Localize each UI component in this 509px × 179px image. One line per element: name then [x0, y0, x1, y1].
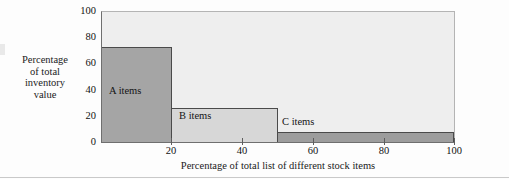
page-bottom-rule: [0, 177, 509, 178]
y-axis-title-line-3: inventory: [14, 77, 76, 89]
plot-area: [101, 11, 455, 143]
y-axis-title: Percentage of total inventory value: [14, 54, 76, 100]
bar-c-items: [278, 132, 454, 142]
x-tick-label-40: 40: [227, 145, 257, 156]
scan-edge-artifact: [0, 44, 5, 55]
bar-label-a-items: A items: [109, 85, 141, 96]
y-tick-label-100: 100: [68, 5, 96, 16]
y-tick-label-40: 40: [68, 84, 96, 95]
bar-label-c-items: C items: [282, 116, 314, 127]
x-axis-title: Percentage of total list of different st…: [101, 160, 455, 171]
y-axis-title-line-1: Percentage: [14, 54, 76, 66]
x-tick-label-80: 80: [369, 145, 399, 156]
y-axis-title-line-4: value: [14, 89, 76, 101]
abc-inventory-chart-figure: Percentage of total inventory value 100 …: [0, 0, 509, 179]
y-tick-label-80: 80: [68, 31, 96, 42]
x-tick-label-20: 20: [156, 145, 186, 156]
x-tick-label-60: 60: [298, 145, 328, 156]
bar-label-b-items: B items: [179, 110, 211, 121]
x-tick-60: [313, 138, 314, 145]
x-tick-label-100: 100: [439, 145, 469, 156]
x-tick-40: [242, 138, 243, 145]
x-tick-80: [384, 138, 385, 145]
x-tick-20: [171, 138, 172, 145]
y-tick-label-0: 0: [68, 136, 96, 147]
y-tick-label-20: 20: [68, 110, 96, 121]
y-tick-label-60: 60: [68, 57, 96, 68]
x-tick-100: [454, 138, 455, 145]
y-axis-title-line-2: of total: [14, 66, 76, 78]
